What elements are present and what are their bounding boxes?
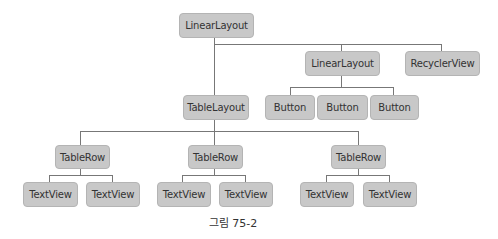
connector	[290, 87, 291, 95]
connector	[80, 131, 81, 145]
connector	[358, 131, 359, 145]
node-tablelayout: TableLayout	[183, 95, 249, 120]
connector	[214, 37, 215, 95]
connector	[326, 175, 390, 176]
node-textview-2: TextView	[86, 182, 140, 207]
node-textview-4: TextView	[219, 182, 273, 207]
connector	[49, 175, 113, 176]
connector	[80, 168, 81, 175]
node-recyclerview: RecyclerView	[405, 51, 480, 76]
connector	[80, 131, 359, 132]
connector	[214, 168, 215, 175]
node-button-1: Button	[265, 95, 315, 120]
connector	[214, 119, 215, 145]
connector	[182, 175, 246, 176]
connector	[112, 175, 113, 182]
node-textview-6: TextView	[363, 182, 417, 207]
connector	[358, 168, 359, 175]
connector	[393, 87, 394, 95]
connector	[441, 44, 442, 51]
connector	[49, 175, 50, 182]
connector	[290, 87, 394, 88]
node-textview-5: TextView	[300, 182, 354, 207]
node-textview-1: TextView	[23, 182, 78, 207]
node-textview-3: TextView	[157, 182, 211, 207]
node-tablerow-3: TableRow	[331, 145, 386, 169]
node-child-linearlayout: LinearLayout	[305, 51, 380, 76]
figure-caption: 그림 75-2	[200, 214, 266, 230]
connector	[341, 44, 342, 51]
connector	[341, 75, 342, 87]
connector	[326, 175, 327, 182]
node-tablerow-1: TableRow	[55, 145, 110, 169]
connector	[245, 175, 246, 182]
node-tablerow-2: TableRow	[188, 145, 243, 169]
connector	[182, 175, 183, 182]
connector	[389, 175, 390, 182]
view-hierarchy-diagram: LinearLayout LinearLayout RecyclerView B…	[0, 0, 498, 239]
connector	[214, 44, 442, 45]
node-button-3: Button	[370, 95, 419, 120]
node-button-2: Button	[317, 95, 368, 120]
node-root-linearlayout: LinearLayout	[179, 13, 254, 38]
